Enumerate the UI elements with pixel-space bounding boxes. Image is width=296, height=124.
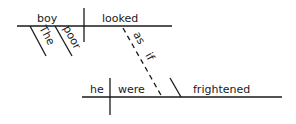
connector-if: if [142,50,157,63]
main-verb: looked [102,12,138,25]
sub-complement: frightened [193,83,250,96]
sentence-diagram: boy looked The poor as if he were fright… [0,0,296,124]
sub-verb: were [118,83,145,96]
sub-subject: he [90,83,104,96]
sub-complement-slant [170,78,181,97]
connector-as: as [130,29,147,46]
modifier-poor: poor [60,23,83,52]
